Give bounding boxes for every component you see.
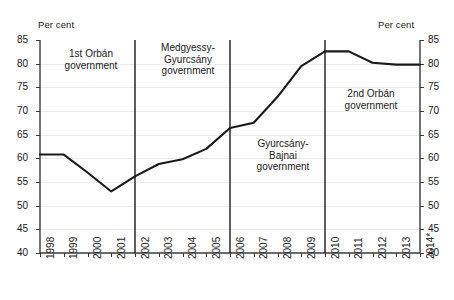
- annotation-2nd-orban: 2nd Orbán government: [326, 88, 416, 111]
- annotation-gyurcsany-bajnai: Gyurcsány- Bajnai government: [238, 138, 328, 173]
- annotation-1st-orban: 1st Orbán government: [48, 48, 134, 71]
- line-chart: Per cent Per cent 8585808075757070656560…: [0, 0, 454, 300]
- annotation-medgyessy-gyurcsany: Medgyessy- Gyurcsány government: [146, 42, 230, 77]
